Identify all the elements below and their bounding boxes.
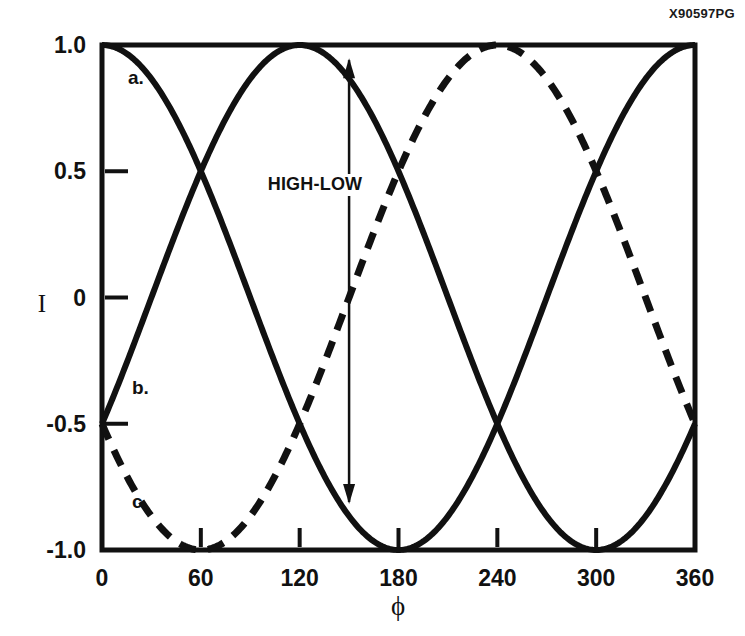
y-axis-tick-labels: 1.00.50-0.5-1.0 (46, 32, 86, 563)
chart-annotations: HIGH-LOW (253, 58, 377, 504)
y-tick-label: 0.5 (54, 158, 86, 184)
y-axis-title: I (38, 290, 46, 317)
high-low-label: HIGH-LOW (268, 174, 363, 194)
curve-labels: a.b.c. (128, 67, 149, 512)
x-tick-label: 240 (478, 565, 516, 591)
curve-b (102, 45, 695, 550)
plot-frame (102, 45, 695, 550)
high-low-arrowhead-bottom (343, 484, 355, 504)
curve-label-c: c. (132, 491, 148, 512)
figure-panel: X90597PG 060120180240300360 1.00.50-0.5-… (0, 0, 745, 636)
high-low-arrowhead-top (343, 58, 355, 78)
x-tick-label: 0 (96, 565, 109, 591)
data-curves (102, 45, 695, 550)
y-tick-label: 0 (73, 285, 86, 311)
x-axis-title: ϕ (391, 591, 405, 621)
x-axis-tick-labels: 060120180240300360 (96, 565, 715, 591)
curve-label-a: a. (128, 67, 144, 88)
curve-a (102, 45, 695, 550)
x-tick-label: 60 (188, 565, 214, 591)
y-tick-label: 1.0 (54, 32, 86, 58)
figure-id-code: X90597PG (669, 6, 735, 21)
x-tick-label: 180 (379, 565, 417, 591)
chart-plot: 060120180240300360 1.00.50-0.5-1.0 I ϕ a… (0, 0, 745, 636)
x-axis-ticks (201, 528, 596, 547)
curve-c (102, 45, 695, 550)
x-tick-label: 360 (676, 565, 714, 591)
x-tick-label: 120 (280, 565, 318, 591)
y-tick-label: -1.0 (46, 537, 86, 563)
x-tick-label: 300 (577, 565, 615, 591)
y-tick-label: -0.5 (46, 411, 86, 437)
curve-label-b: b. (132, 377, 149, 398)
